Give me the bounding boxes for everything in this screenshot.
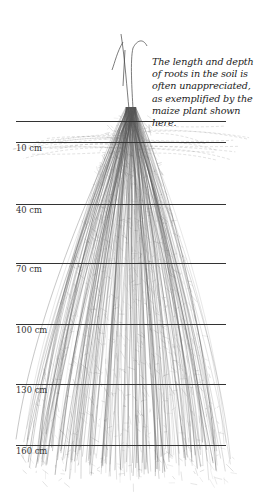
- depth-label-130cm: 130 cm: [16, 385, 47, 395]
- depth-label-100cm: 100 cm: [16, 325, 47, 335]
- diagram-caption: The length and depth of roots in the soi…: [152, 56, 261, 129]
- depth-line-10cm: [16, 142, 226, 143]
- depth-label-10cm: 10 cm: [16, 143, 42, 153]
- maize-root-diagram: The length and depth of roots in the soi…: [0, 0, 261, 504]
- root-system-drawing: [11, 107, 249, 492]
- depth-line-130cm: [16, 384, 226, 385]
- depth-label-160cm: 160 cm: [16, 446, 47, 456]
- maize-stem-icon: [112, 34, 147, 109]
- depth-line-70cm: [16, 263, 226, 264]
- soil-surface-line: [16, 121, 226, 122]
- depth-line-40cm: [16, 204, 226, 205]
- depth-label-70cm: 70 cm: [16, 264, 42, 274]
- depth-line-160cm: [16, 445, 226, 446]
- depth-label-40cm: 40 cm: [16, 205, 42, 215]
- depth-line-100cm: [16, 324, 226, 325]
